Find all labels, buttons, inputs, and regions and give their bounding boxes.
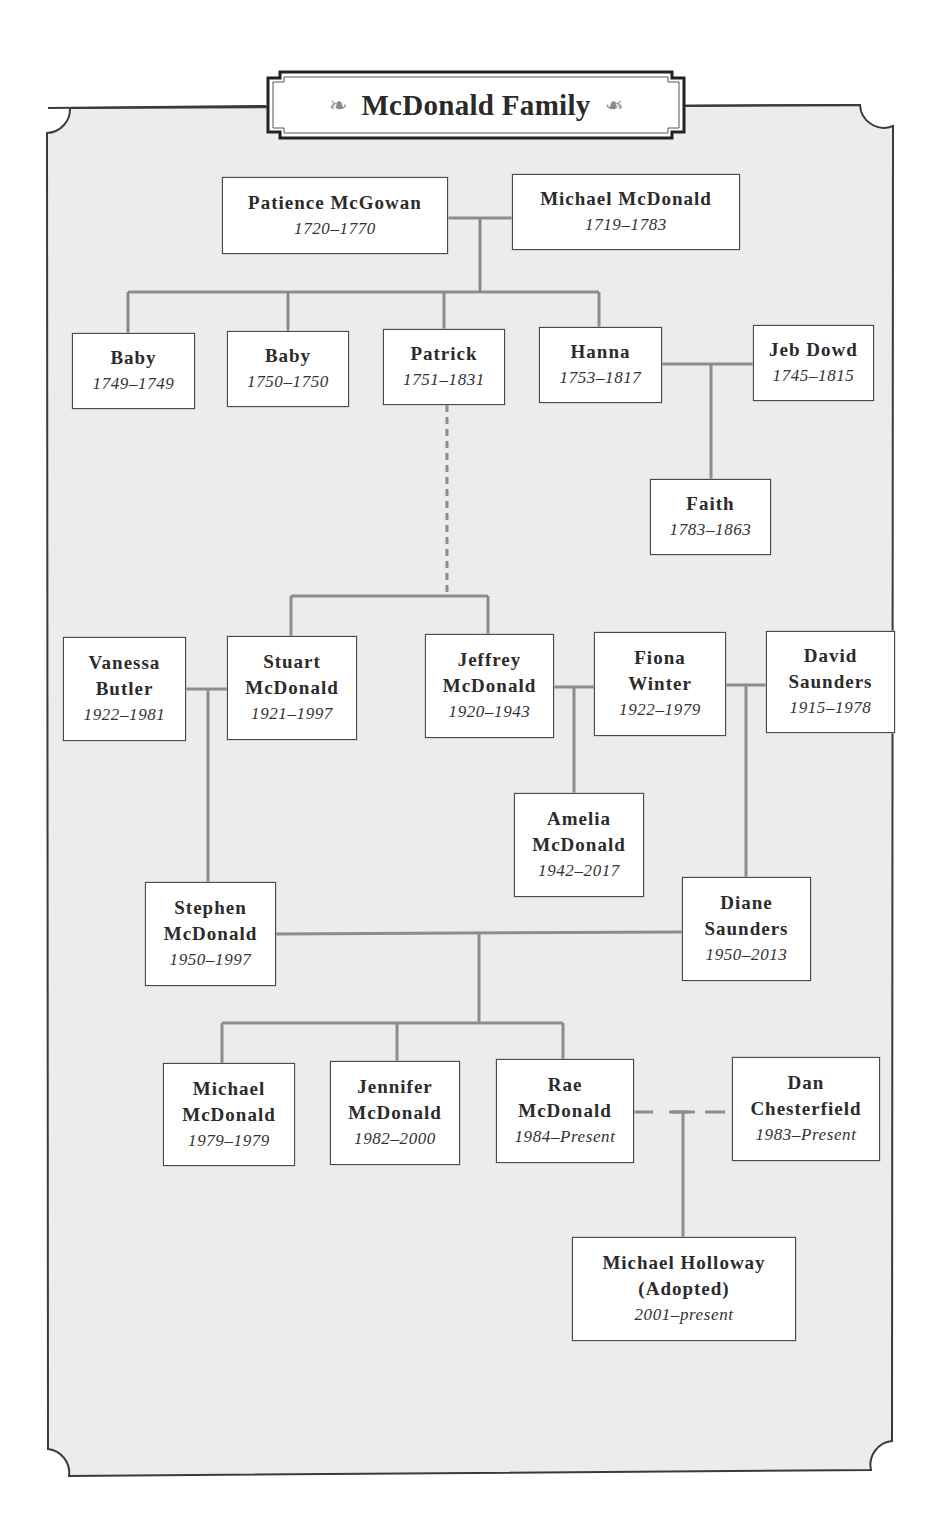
person-card-michael-sr: Michael McDonald 1719–1783	[512, 174, 740, 250]
person-name: Vanessa	[89, 650, 161, 676]
person-surname: Saunders	[788, 669, 872, 695]
page-title: McDonald Family	[361, 89, 590, 122]
person-dates: 1982–2000	[354, 1126, 436, 1152]
person-note: (Adopted)	[638, 1276, 729, 1302]
person-surname: Chesterfield	[750, 1096, 861, 1122]
family-tree: ❧ McDonald Family ❧ Patience McGowan 172…	[0, 0, 930, 1526]
person-name: Patience McGowan	[248, 190, 422, 216]
person-surname: McDonald	[182, 1102, 276, 1128]
person-card-david: David Saunders 1915–1978	[766, 631, 895, 733]
person-name: Diane	[720, 890, 773, 916]
person-dates: 1922–1979	[619, 697, 701, 723]
person-dates: 1745–1815	[773, 363, 855, 389]
person-card-holloway: Michael Holloway (Adopted) 2001–present	[572, 1237, 796, 1341]
person-card-dan: Dan Chesterfield 1983–Present	[732, 1057, 880, 1161]
person-card-baby-1750: Baby 1750–1750	[227, 331, 349, 407]
person-dates: 1783–1863	[670, 517, 752, 543]
person-surname: Saunders	[704, 916, 788, 942]
person-surname: Butler	[96, 676, 154, 702]
person-name: Michael McDonald	[540, 186, 712, 212]
person-dates: 2001–present	[634, 1302, 733, 1328]
person-dates: 1922–1981	[84, 702, 166, 728]
person-dates: 1950–2013	[706, 942, 788, 968]
person-card-baby-1749: Baby 1749–1749	[72, 333, 195, 409]
person-surname: Winter	[628, 671, 692, 697]
person-name: Stuart	[263, 649, 321, 675]
person-dates: 1749–1749	[93, 371, 175, 397]
person-name: Michael Holloway	[602, 1250, 765, 1276]
person-card-amelia: Amelia McDonald 1942–2017	[514, 793, 644, 897]
person-card-stephen: Stephen McDonald 1950–1997	[145, 882, 276, 986]
person-dates: 1720–1770	[294, 216, 376, 242]
person-name: Amelia	[547, 806, 611, 832]
person-surname: McDonald	[348, 1100, 442, 1126]
person-card-jennifer: Jennifer McDonald 1982–2000	[330, 1061, 460, 1165]
person-surname: McDonald	[164, 921, 258, 947]
person-name: Baby	[265, 343, 311, 369]
person-name: Jeb Dowd	[769, 337, 858, 363]
person-dates: 1983–Present	[756, 1122, 857, 1148]
person-name: Michael	[193, 1076, 265, 1102]
person-name: Baby	[110, 345, 156, 371]
person-card-patrick: Patrick 1751–1831	[383, 329, 505, 405]
person-card-fiona: Fiona Winter 1922–1979	[594, 632, 726, 736]
person-dates: 1920–1943	[449, 699, 531, 725]
person-card-hanna: Hanna 1753–1817	[539, 327, 662, 403]
title-plate: ❧ McDonald Family ❧	[266, 72, 686, 138]
person-card-jeffrey: Jeffrey McDonald 1920–1943	[425, 634, 554, 738]
right-flourish-icon: ❧	[605, 93, 623, 118]
person-name: Hanna	[571, 339, 631, 365]
person-card-patience: Patience McGowan 1720–1770	[222, 177, 448, 254]
person-surname: McDonald	[245, 675, 339, 701]
person-surname: McDonald	[518, 1098, 612, 1124]
person-name: Rae	[548, 1072, 583, 1098]
person-dates: 1750–1750	[247, 369, 329, 395]
person-name: Patrick	[410, 341, 477, 367]
person-name: Stephen	[174, 895, 246, 921]
person-surname: McDonald	[532, 832, 626, 858]
person-card-faith: Faith 1783–1863	[650, 479, 771, 555]
person-name: Fiona	[634, 645, 685, 671]
person-card-rae: Rae McDonald 1984–Present	[496, 1059, 634, 1163]
person-dates: 1921–1997	[251, 701, 333, 727]
person-card-vanessa: Vanessa Butler 1922–1981	[63, 637, 186, 741]
person-dates: 1950–1997	[170, 947, 252, 973]
person-name: Jennifer	[357, 1074, 433, 1100]
person-card-jeb: Jeb Dowd 1745–1815	[753, 325, 874, 401]
person-name: Dan	[788, 1070, 825, 1096]
person-card-diane: Diane Saunders 1950–2013	[682, 877, 811, 981]
person-name: David	[804, 643, 858, 669]
person-dates: 1979–1979	[188, 1128, 270, 1154]
person-card-stuart: Stuart McDonald 1921–1997	[227, 636, 357, 740]
person-card-michael-jr: Michael McDonald 1979–1979	[163, 1063, 295, 1166]
person-dates: 1751–1831	[403, 367, 485, 393]
person-surname: McDonald	[443, 673, 537, 699]
person-name: Jeffrey	[458, 647, 522, 673]
left-flourish-icon: ❧	[329, 93, 347, 118]
person-dates: 1753–1817	[560, 365, 642, 391]
person-dates: 1915–1978	[790, 695, 872, 721]
person-dates: 1942–2017	[538, 858, 620, 884]
person-name: Faith	[686, 491, 734, 517]
person-dates: 1719–1783	[585, 212, 667, 238]
person-dates: 1984–Present	[515, 1124, 616, 1150]
